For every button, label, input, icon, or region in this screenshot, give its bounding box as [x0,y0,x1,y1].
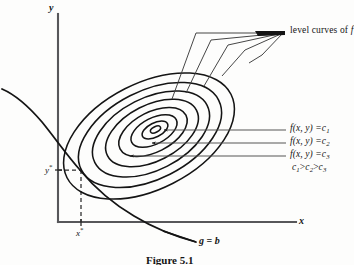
ordering-c3-subscript: 3 [323,166,327,173]
figure-container: y x y* x* level curves of f f(x, y) =c1 … [0,0,354,265]
leader-line-constraint [163,231,196,242]
level-curve-ring-2 [126,108,182,154]
y-star-label: y* [45,164,53,175]
x-star-asterisk: * [80,226,84,234]
level-curve-ring-6 [61,61,238,209]
constants-ordering-label: c1>c2>c3 [292,163,326,173]
level-label-c3-subscript: 3 [326,153,330,160]
figure-caption: Figure 5.1 [146,255,193,265]
axes-group [58,14,296,222]
ordering-c1-subscript: 1 [296,166,300,173]
optimum-projection-lines [58,170,81,222]
level-label-c2-subscript: 2 [326,140,330,147]
level-label-c2-expr: f(x, y) = [290,136,322,146]
constraint-rhs: b [215,235,220,246]
leader-fan-line-3 [204,33,283,86]
level-curve-outermost [43,47,255,225]
constraint-curve-label: g = b [199,236,220,246]
x-star-label: x* [76,227,84,238]
ordering-c2: c [305,162,309,172]
level-curve-core-dot [149,125,161,135]
level-curves-leader-fan [172,31,285,99]
level-label-c2: f(x, y) =c2 [290,137,330,147]
y-axis-label: y [49,3,53,13]
level-curves-callout-text: level curves of [290,25,348,35]
y-star-asterisk: * [49,163,53,171]
constraint-lhs: g [199,235,204,246]
leader-fan-line-5 [249,33,283,63]
level-curves-group [43,47,255,225]
ordering-c2-subscript: 2 [310,166,314,173]
level-curves-callout-function: f [351,25,354,35]
level-curve-c3 [79,73,224,194]
level-curves-callout-label: level curves of f [290,26,354,36]
level-label-c1: f(x, y) =c1 [290,124,330,134]
level-label-c1-subscript: 1 [326,127,330,134]
level-label-c3-expr: f(x, y) = [290,149,322,159]
leader-fan-line-2 [186,33,283,93]
level-label-c3: f(x, y) =c3 [290,150,330,160]
constraint-equals: = [207,235,213,246]
x-axis-label: x [299,216,304,226]
level-label-c1-expr: f(x, y) = [290,123,322,133]
